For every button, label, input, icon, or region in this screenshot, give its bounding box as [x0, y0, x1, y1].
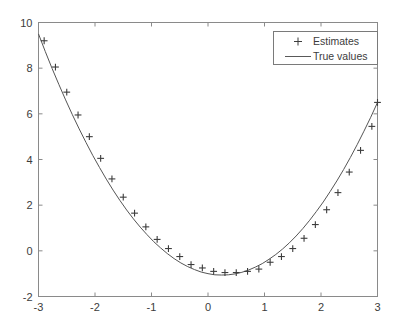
x-tick-label: -1: [147, 301, 157, 313]
y-tick-label: 2: [26, 199, 32, 211]
figure-container: -3-2-10123 -20246810 Estimates True valu…: [0, 0, 405, 331]
x-tick-label: 3: [374, 301, 380, 313]
legend-label-estimates: Estimates: [313, 35, 359, 47]
x-tick-label: -2: [90, 301, 100, 313]
legend[interactable]: Estimates True values: [274, 32, 378, 65]
legend-label-true-values: True values: [313, 50, 367, 62]
y-tick-label: 8: [26, 62, 32, 74]
y-axis-tick-labels: -20246810: [20, 17, 32, 303]
x-tick-label: 2: [318, 301, 324, 313]
y-tick-label: 10: [20, 17, 32, 29]
y-tick-label: 0: [26, 245, 32, 257]
x-tick-label: 1: [261, 301, 267, 313]
y-tick-label: 6: [26, 108, 32, 120]
y-tick-label: 4: [26, 154, 32, 166]
y-tick-label: -2: [23, 291, 33, 303]
x-axis-tick-labels: -3-2-10123: [34, 301, 381, 313]
chart-canvas[interactable]: -3-2-10123 -20246810 Estimates True valu…: [0, 0, 405, 331]
x-tick-label: 0: [205, 301, 211, 313]
x-tick-label: -3: [34, 301, 44, 313]
